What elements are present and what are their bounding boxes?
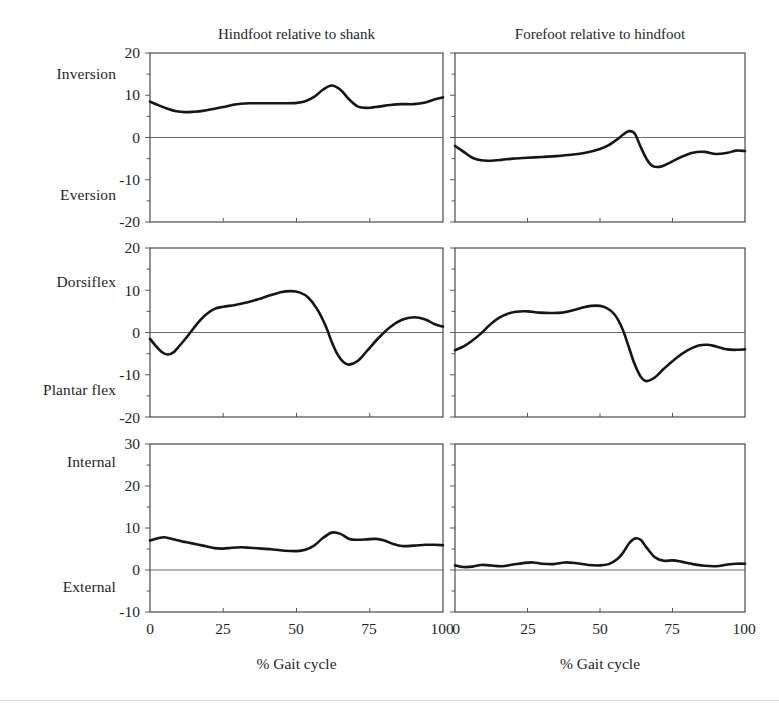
panel-frame (150, 444, 443, 612)
data-curve (150, 291, 443, 365)
gait-kinematics-figure: Hindfoot relative to shank Forefoot rela… (0, 0, 779, 706)
plot-panel-1 (450, 53, 745, 222)
data-curve (455, 306, 745, 381)
data-curve (150, 86, 443, 113)
data-curve (455, 131, 745, 167)
footer-divider (0, 700, 779, 701)
data-curve (150, 532, 443, 551)
plot-panel-0 (145, 53, 443, 222)
panel-frame (455, 444, 745, 612)
plot-panel-2 (145, 248, 443, 417)
data-curve (455, 538, 745, 567)
plot-panel-5 (450, 444, 745, 612)
plot-panel-4 (145, 444, 443, 612)
plots-svg-layer (0, 0, 779, 706)
plot-panel-3 (450, 248, 745, 417)
